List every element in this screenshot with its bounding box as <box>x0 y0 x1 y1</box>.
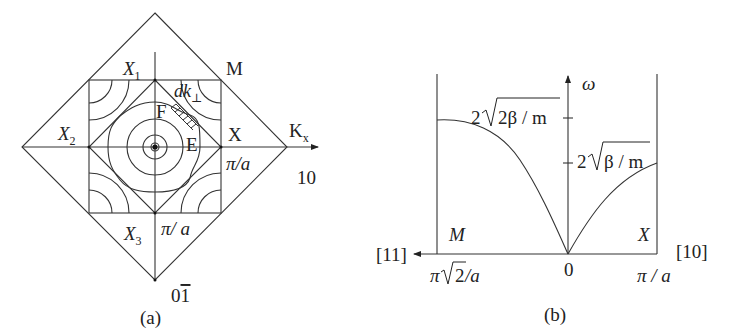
label-m: M <box>448 224 466 245</box>
svg-text:2: 2 <box>455 265 465 286</box>
corner-arc-bl-1 <box>89 190 112 213</box>
bottom-vertex-point <box>154 279 157 282</box>
corner-arc-br-2 <box>181 173 221 213</box>
caption-b: (b) <box>544 304 566 326</box>
label-origin: 0 <box>564 259 574 280</box>
label-omega-max-11: 2 2β / m <box>471 98 560 128</box>
label-k-10: π / a <box>637 265 671 286</box>
svg-text:β / m: β / m <box>604 151 643 172</box>
figure-canvas: X1 M dk⊥ F E X2 X Kx π/a 10 π/ a X3 01 (… <box>0 0 736 334</box>
x2-point <box>88 146 91 149</box>
label-omega: ω <box>582 73 595 94</box>
corner-arc-br-1 <box>198 190 221 213</box>
figure-b-labels: ω 2 2β / m 2 β / m M X [11] [10] 0 π 2 /… <box>376 73 708 326</box>
label-e: E <box>186 134 198 155</box>
x1-point <box>154 79 157 82</box>
label-x2: X2 <box>57 123 76 148</box>
label-m: M <box>226 58 243 79</box>
caption-a: (a) <box>140 307 161 329</box>
label-f: F <box>156 101 167 122</box>
svg-text:2: 2 <box>471 107 481 128</box>
label-x: X <box>637 224 651 245</box>
label-pi-over-a-right: π/a <box>226 153 250 174</box>
label-dir-10: 10 <box>297 167 316 188</box>
label-x3: X3 <box>123 223 142 248</box>
label-x1: X1 <box>122 58 141 83</box>
label-pi-over-a-bottom: π/ a <box>161 218 190 239</box>
gamma-point <box>152 144 157 149</box>
x3-point <box>154 212 157 215</box>
figure-a-brillouin-zone <box>22 13 318 280</box>
label-dir-01bar: 01 <box>171 285 190 306</box>
x-point <box>220 146 223 149</box>
svg-text:2β / m: 2β / m <box>498 107 547 128</box>
label-kx: Kx <box>289 120 309 145</box>
corner-arc-tl-1 <box>89 80 112 103</box>
label-x: X <box>228 124 242 145</box>
label-dir-10: [10] <box>676 241 708 262</box>
label-dir-11: [11] <box>376 244 407 265</box>
label-omega-max-10: 2 β / m <box>577 142 650 172</box>
svg-text:2: 2 <box>577 151 587 172</box>
corner-arc-bl-2 <box>89 173 129 213</box>
label-k-11: π 2 /a <box>430 262 480 286</box>
svg-text:/a: /a <box>464 265 480 286</box>
svg-text:π: π <box>430 265 440 286</box>
